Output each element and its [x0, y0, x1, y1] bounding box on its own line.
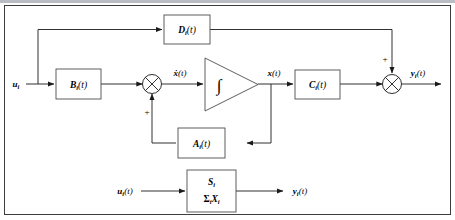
- signal-label-y-lower: yi(t): [292, 186, 307, 197]
- signal-label-xdot: ẋ(t): [173, 68, 187, 78]
- integrator-block[interactable]: [205, 58, 258, 111]
- B-matrix-block-label: Bi(t): [69, 80, 87, 91]
- A-matrix-block-label: Ai(t): [192, 139, 210, 150]
- output-sum-plus-sign: +: [382, 54, 387, 64]
- signal-label-y-output: yi(t): [410, 68, 425, 79]
- signal-label-x-state: x(t): [267, 68, 281, 78]
- subsystem-block-label-line2: ΣiXi: [203, 194, 219, 205]
- C-matrix-block-label: Ci(t): [309, 80, 326, 91]
- D-matrix-block-label: Di(t): [177, 25, 196, 36]
- figure-canvas: Di(t) Bi(t) Ai(t) Ci(t) ∫ Si ΣiXi: [0, 0, 455, 220]
- signal-label-u-lower: ui(t): [117, 186, 132, 197]
- input-sum-plus-sign: +: [144, 107, 149, 117]
- signal-label-u-input: ui: [13, 79, 20, 90]
- block-diagram: Di(t) Bi(t) Ai(t) Ci(t) ∫ Si ΣiXi: [0, 0, 455, 220]
- wire-x-tap-to-A: [247, 84, 271, 143]
- wire-D-to-output-sum: [210, 30, 392, 74]
- wire-A-to-sum: [152, 94, 176, 143]
